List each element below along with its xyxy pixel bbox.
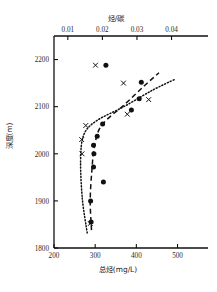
data-point-x-cross: [83, 123, 88, 128]
data-point-filled-circle: [91, 143, 96, 148]
data-point-filled-circle: [91, 151, 96, 156]
bottom-tick-label: 200: [49, 252, 60, 260]
top-tick-label: 0.01: [62, 26, 75, 34]
chart-svg: 0.010.020.030.04200300400500180019002000…: [0, 0, 217, 292]
data-point-filled-circle: [100, 122, 105, 127]
bottom-tick-label: 500: [172, 252, 183, 260]
bottom-tick-label: 300: [90, 252, 101, 260]
data-point-x-cross: [93, 63, 98, 68]
y-tick-label: 1800: [35, 245, 50, 253]
dashed-trend-curve: [90, 73, 159, 230]
top-tick-label: 0.04: [165, 26, 178, 34]
y-tick-label: 1900: [35, 198, 50, 206]
bottom-tick-label: 400: [131, 252, 142, 260]
top-axis-title: 烃/碳: [108, 14, 125, 23]
y-tick-label: 2100: [35, 103, 50, 111]
top-tick-label: 0.02: [96, 26, 109, 34]
bottom-axis-title: 总烃(mg/L): [99, 265, 137, 274]
data-point-x-cross: [121, 81, 126, 86]
data-point-filled-circle: [103, 63, 108, 68]
data-point-filled-circle: [137, 96, 142, 101]
top-tick-label: 0.03: [131, 26, 144, 34]
data-point-filled-circle: [88, 198, 93, 203]
y-axis-title: 深度(m): [5, 122, 14, 149]
data-point-filled-circle: [139, 80, 144, 85]
y-tick-label: 2200: [35, 56, 50, 64]
data-point-filled-circle: [101, 180, 106, 185]
y-tick-label: 2000: [35, 151, 50, 159]
data-point-x-cross: [125, 112, 130, 117]
data-point-x-cross: [79, 137, 84, 142]
data-point-x-cross: [146, 97, 151, 102]
depth-profile-chart: 0.010.020.030.04200300400500180019002000…: [0, 0, 217, 292]
data-point-filled-circle: [91, 165, 96, 170]
data-point-filled-circle: [95, 134, 100, 139]
